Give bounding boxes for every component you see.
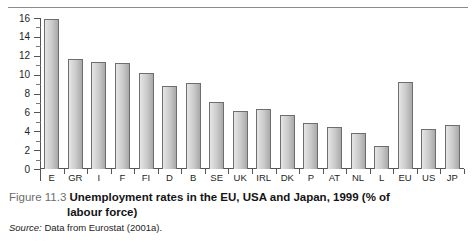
bar-DK <box>280 115 295 169</box>
x-tick <box>205 169 206 174</box>
y-tick-label: 0 <box>24 165 30 175</box>
x-tick-label-B: B <box>190 172 196 183</box>
x-tick <box>64 169 65 174</box>
bar-P <box>303 123 318 169</box>
y-tick-label: 16 <box>19 14 30 24</box>
bar-B <box>186 83 201 169</box>
x-tick <box>370 169 371 174</box>
bar-NL <box>351 133 366 169</box>
x-tick-label-US: US <box>422 172 435 183</box>
figure-source: Source: Data from Eurostat (2001a). <box>9 222 162 234</box>
x-tick-label-E: E <box>49 172 55 183</box>
bar-US <box>421 129 436 169</box>
source-text: Data from Eurostat (2001a). <box>44 222 162 233</box>
bar-UK <box>233 111 248 169</box>
x-tick-label-P: P <box>308 172 314 183</box>
x-tick-label-D: D <box>166 172 173 183</box>
figure-caption: Figure 11.3 Unemployment rates in the EU… <box>9 190 467 219</box>
x-tick <box>158 169 159 174</box>
x-tick <box>464 169 465 174</box>
figure-number: Figure 11.3 <box>9 191 66 203</box>
x-tick-label-I: I <box>98 172 101 183</box>
x-tick <box>111 169 112 174</box>
bar-L <box>374 146 389 169</box>
x-tick-label-IRL: IRL <box>256 172 271 183</box>
bar-AT <box>327 127 342 169</box>
bar-D <box>162 86 177 169</box>
y-tick-label: 12 <box>19 51 30 61</box>
bar-I <box>91 62 106 169</box>
bar-series <box>40 12 464 169</box>
bar-JP <box>445 125 460 169</box>
x-tick-label-GR: GR <box>68 172 82 183</box>
bar-FI <box>139 73 154 169</box>
figure-container: 0246810121416 EGRIFFIDBSEUKIRLDKPATNLLEU… <box>0 0 476 242</box>
y-tick-label: 8 <box>24 89 30 99</box>
x-tick-label-AT: AT <box>329 172 340 183</box>
bar-IRL <box>256 109 271 169</box>
top-divider-rule <box>8 7 468 8</box>
x-tick <box>323 169 324 174</box>
chart-plot-area: 0246810121416 EGRIFFIDBSEUKIRLDKPATNLLEU… <box>0 12 476 184</box>
bar-SE <box>209 102 224 169</box>
x-tick-label-F: F <box>120 172 126 183</box>
x-tick-label-JP: JP <box>447 172 458 183</box>
x-tick <box>276 169 277 174</box>
x-tick-label-L: L <box>379 172 384 183</box>
x-tick <box>181 169 182 174</box>
x-tick <box>252 169 253 174</box>
x-tick-label-FI: FI <box>142 172 150 183</box>
x-tick <box>134 169 135 174</box>
y-tick-label: 2 <box>24 146 30 156</box>
y-tick-label: 6 <box>24 108 30 118</box>
y-tick-label: 4 <box>24 127 30 137</box>
y-tick-label: 14 <box>19 32 30 42</box>
x-tick <box>40 169 41 174</box>
y-tick-label: 10 <box>19 70 30 80</box>
bar-E <box>44 19 59 169</box>
x-tick <box>440 169 441 174</box>
x-tick-label-UK: UK <box>234 172 247 183</box>
bar-EU <box>398 82 413 169</box>
x-tick <box>299 169 300 174</box>
x-tick <box>393 169 394 174</box>
x-tick <box>228 169 229 174</box>
figure-caption-line1: Unemployment rates in the EU, USA and Ja… <box>70 191 390 203</box>
figure-caption-line2: labour force) <box>9 205 467 220</box>
x-tick-label-NL: NL <box>352 172 364 183</box>
x-tick <box>417 169 418 174</box>
x-tick <box>346 169 347 174</box>
source-label: Source: <box>9 222 42 233</box>
bar-F <box>115 63 130 169</box>
x-tick-label-DK: DK <box>281 172 294 183</box>
x-tick <box>87 169 88 174</box>
x-tick-label-EU: EU <box>399 172 412 183</box>
x-tick-label-SE: SE <box>210 172 223 183</box>
bar-GR <box>68 59 83 169</box>
